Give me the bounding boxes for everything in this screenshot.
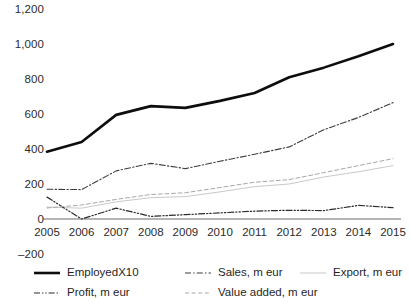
legend-swatch-sales-m-eur [185,267,211,279]
series-line-sales-m-eur [47,103,393,190]
legend-swatch-export-m-eur [300,267,326,279]
y-axis: 1,2001,0008006004002000–200 [0,0,44,262]
legend-swatch-profit-m-eur [34,287,60,299]
y-axis-tick-label: 600 [2,108,44,120]
chart-legend: EmployedX10Sales, m eurExport, m eurProf… [0,264,404,307]
y-axis-tick-label: 1,200 [2,3,44,15]
legend-item-sales-m-eur[interactable]: Sales, m eur [185,266,283,279]
plot-svg [0,0,404,262]
legend-swatch-value-added-m-eur [185,287,211,299]
series-line-export-m-eur [47,166,393,209]
legend-item-export-m-eur[interactable]: Export, m eur [300,266,402,279]
y-axis-tick-label: 400 [2,143,44,155]
y-axis-tick-label: 800 [2,73,44,85]
legend-item-employedx10[interactable]: EmployedX10 [34,266,139,279]
series-line-value-added-m-eur [47,159,393,208]
y-axis-tick-label: –200 [2,248,44,260]
x-axis: 2005200620072008200920102011201220132014… [46,225,396,243]
legend-label: Export, m eur [333,266,402,279]
legend-item-profit-m-eur[interactable]: Profit, m eur [34,286,130,299]
series-line-profit-m-eur [47,197,393,219]
legend-label: Sales, m eur [218,266,283,279]
y-axis-tick-label: 1,000 [2,38,44,50]
legend-label: Value added, m eur [218,286,318,299]
y-axis-tick-label: 0 [2,213,44,225]
legend-item-value-added-m-eur[interactable]: Value added, m eur [185,286,318,299]
y-axis-tick-label: 200 [2,178,44,190]
legend-label: EmployedX10 [67,266,139,279]
legend-label: Profit, m eur [67,286,130,299]
series-line-employedx10 [47,44,393,152]
plot-area [0,0,404,262]
x-axis-tick-label: 2015 [373,225,410,239]
legend-swatch-employedx10 [34,267,60,279]
